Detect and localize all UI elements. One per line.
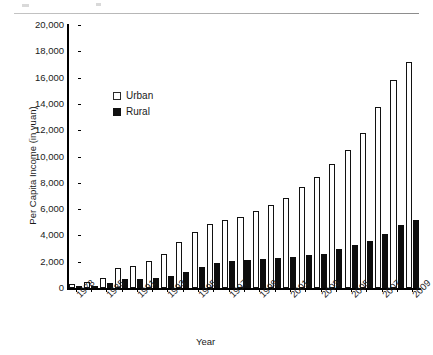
legend-swatch-rural-icon xyxy=(113,108,121,116)
x-tick-mark xyxy=(305,289,306,292)
x-tick-label: 2007 xyxy=(380,277,403,300)
y-tick-label: 0 xyxy=(18,283,64,293)
x-tick-mark xyxy=(366,289,367,292)
chart-legend: Urban Rural xyxy=(113,88,191,120)
legend-item-rural: Rural xyxy=(113,104,191,120)
y-tick-label: 14,000 xyxy=(18,99,64,109)
x-tick-mark xyxy=(336,289,337,292)
x-tick-label: 1997 xyxy=(227,277,250,300)
y-tick-label: 6,000 xyxy=(18,204,64,214)
x-tick-label: 2009 xyxy=(410,277,433,300)
x-tick-label: 1991 xyxy=(135,277,158,300)
x-tick-label: 2001 xyxy=(288,277,311,300)
x-tick-mark xyxy=(152,289,153,292)
x-tick-mark xyxy=(122,289,123,292)
x-tick-label: 1995 xyxy=(196,277,219,300)
y-tick-label: 20,000 xyxy=(18,20,64,30)
x-tick-label: 2003 xyxy=(319,277,342,300)
x-axis-title: Year xyxy=(196,336,215,347)
x-tick-label: 1985 xyxy=(104,277,127,300)
x-axis-ticks: 1978198519911993199519971999200120032005… xyxy=(68,0,428,355)
y-tick-label: 8,000 xyxy=(18,178,64,188)
x-tick-label: 1978 xyxy=(74,277,97,300)
x-tick-mark xyxy=(91,289,92,292)
x-tick-mark xyxy=(244,289,245,292)
legend-label-rural: Rural xyxy=(126,107,150,117)
y-tick-label: 16,000 xyxy=(18,73,64,83)
legend-label-urban: Urban xyxy=(126,91,153,101)
y-tick-label: 2,000 xyxy=(18,257,64,267)
x-tick-mark xyxy=(183,289,184,292)
y-tick-label: 10,000 xyxy=(18,152,64,162)
x-tick-mark xyxy=(213,289,214,292)
x-tick-mark xyxy=(397,289,398,292)
y-tick-label: 4,000 xyxy=(18,230,64,240)
legend-swatch-urban-icon xyxy=(113,92,121,100)
y-tick-label: 12,000 xyxy=(18,125,64,135)
y-axis-ticks: 20,00018,00016,00014,00012,00010,0008,00… xyxy=(14,0,64,355)
x-tick-label: 2005 xyxy=(349,277,372,300)
y-tick-label: 18,000 xyxy=(18,46,64,56)
x-tick-label: 1993 xyxy=(165,277,188,300)
legend-item-urban: Urban xyxy=(113,88,191,104)
x-tick-label: 1999 xyxy=(257,277,280,300)
x-tick-mark xyxy=(275,289,276,292)
